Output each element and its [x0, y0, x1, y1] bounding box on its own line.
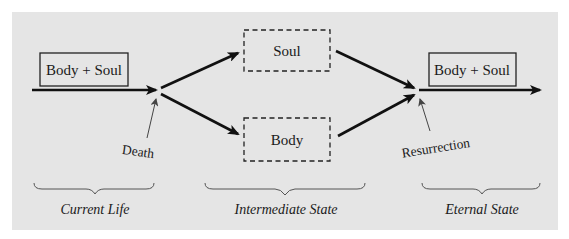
afterlife-states-diagram: Body + Soul Soul Body Body + Soul Death … [0, 0, 569, 239]
phase-label-eternal-state: Eternal State [444, 202, 519, 217]
phase-label-intermediate-state: Intermediate State [233, 202, 337, 217]
end-state-label: Body + Soul [434, 62, 510, 78]
phase-label-current-life: Current Life [60, 202, 129, 217]
start-state-label: Body + Soul [46, 62, 122, 78]
soul-state-label: Soul [273, 43, 301, 59]
body-state-label: Body [271, 132, 304, 148]
